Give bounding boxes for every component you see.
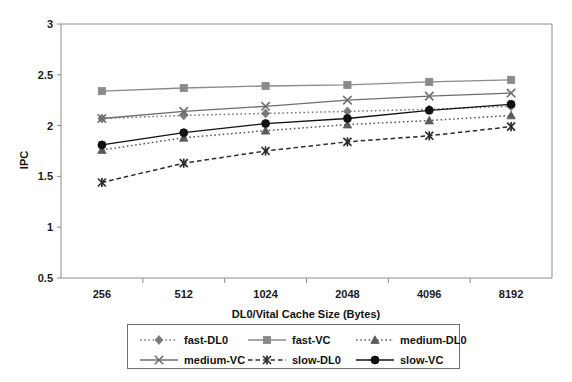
legend-marker-sample bbox=[263, 336, 270, 343]
x-tick-label: 256 bbox=[93, 288, 111, 300]
data-point-marker bbox=[98, 87, 105, 94]
data-point-marker bbox=[262, 120, 270, 128]
x-tick-label: 1024 bbox=[253, 288, 278, 300]
plot-frame bbox=[61, 24, 552, 278]
legend-marker-sample bbox=[371, 356, 379, 364]
data-point-marker bbox=[507, 100, 515, 108]
x-tick-label: 512 bbox=[175, 288, 193, 300]
data-point-marker bbox=[180, 129, 188, 137]
data-point-marker bbox=[262, 82, 269, 89]
data-point-marker bbox=[425, 106, 433, 114]
legend-item-medium-vc[interactable]: medium-VC bbox=[140, 354, 245, 366]
y-tick-label: 0.5 bbox=[38, 272, 53, 284]
x-axis-title: DL0/Vital Cache Size (Bytes) bbox=[232, 308, 381, 320]
data-point-marker bbox=[98, 141, 106, 149]
legend-label: slow-VC bbox=[400, 354, 443, 366]
x-tick-label: 8192 bbox=[499, 288, 523, 300]
data-point-marker bbox=[180, 84, 187, 91]
y-tick-label: 2 bbox=[47, 120, 53, 132]
data-point-marker bbox=[343, 114, 351, 122]
y-tick-label: 1.5 bbox=[38, 170, 53, 182]
y-tick-label: 3 bbox=[47, 18, 53, 30]
data-point-marker bbox=[344, 81, 351, 88]
series-line bbox=[102, 127, 511, 183]
chart-container: 0.511.522.53 2565121024204840968192 IPC … bbox=[0, 0, 572, 382]
data-point-marker bbox=[507, 122, 515, 131]
x-tick-label: 4096 bbox=[417, 288, 441, 300]
legend-label: fast-VC bbox=[292, 334, 331, 346]
legend-label: medium-DL0 bbox=[400, 334, 467, 346]
series-line bbox=[102, 106, 511, 118]
x-axis-ticks: 2565121024204840968192 bbox=[93, 278, 524, 300]
y-tick-label: 1 bbox=[47, 221, 53, 233]
y-axis-ticks: 0.511.522.53 bbox=[38, 18, 61, 284]
data-point-marker bbox=[507, 76, 514, 83]
data-point-marker bbox=[262, 109, 270, 118]
series-medium-dl0 bbox=[98, 111, 516, 153]
y-axis-title: IPC bbox=[18, 151, 30, 169]
legend-label: slow-DL0 bbox=[292, 354, 341, 366]
series-slow-dl0 bbox=[98, 122, 515, 187]
data-point-marker bbox=[426, 78, 433, 85]
legend-label: fast-DL0 bbox=[184, 334, 228, 346]
y-tick-label: 2.5 bbox=[38, 69, 53, 81]
legend-label: medium-VC bbox=[184, 354, 245, 366]
series-medium-vc bbox=[98, 89, 516, 123]
series-line bbox=[102, 93, 511, 118]
series-line bbox=[102, 104, 511, 145]
ipc-vs-cache-size-line-chart: 0.511.522.53 2565121024204840968192 IPC … bbox=[0, 0, 572, 382]
x-tick-label: 2048 bbox=[335, 288, 359, 300]
series-fast-vc bbox=[98, 76, 514, 94]
data-point-marker bbox=[262, 146, 270, 155]
series-fast-dl0 bbox=[98, 102, 515, 123]
series-line bbox=[102, 80, 511, 91]
series-layer bbox=[98, 76, 516, 187]
